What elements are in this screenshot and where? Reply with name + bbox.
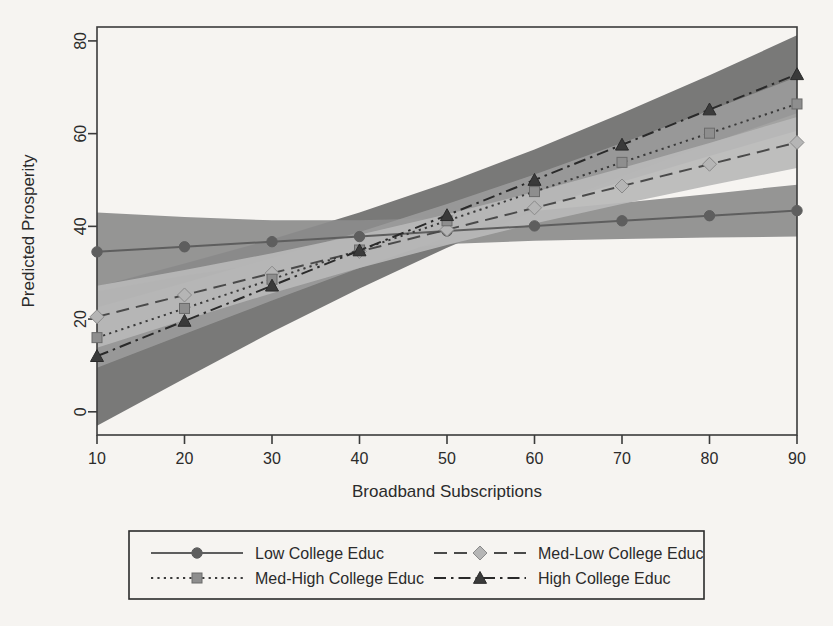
x-tick-label: 40 — [351, 450, 369, 467]
y-tick-label: 20 — [72, 310, 89, 328]
legend-label: Med-Low College Educ — [538, 545, 703, 562]
circle-marker — [704, 211, 714, 221]
circle-marker — [617, 216, 627, 226]
square-marker — [705, 128, 715, 138]
legend: Low College EducMed-Low College EducMed-… — [129, 531, 704, 599]
legend-label: Low College Educ — [255, 545, 384, 562]
x-axis-title: Broadband Subscriptions — [352, 482, 542, 501]
circle-marker — [92, 247, 102, 257]
square-marker — [192, 573, 202, 583]
x-tick-label: 60 — [526, 450, 544, 467]
chart-page: 102030405060708090 020406080 Broadband S… — [0, 0, 833, 626]
y-tick-label: 80 — [72, 32, 89, 50]
y-axis-title: Predicted Prosperity — [19, 154, 38, 308]
square-marker — [792, 99, 802, 109]
x-tick-label: 70 — [613, 450, 631, 467]
circle-marker — [267, 236, 277, 246]
square-marker — [180, 303, 190, 313]
x-tick-label: 80 — [701, 450, 719, 467]
circle-marker — [792, 205, 802, 215]
legend-label: Med-High College Educ — [255, 570, 424, 587]
circle-marker — [354, 231, 364, 241]
circle-marker — [179, 242, 189, 252]
prosperity-broadband-figure: 102030405060708090 020406080 Broadband S… — [0, 0, 833, 626]
circle-marker — [529, 221, 539, 231]
legend-frame — [129, 531, 704, 599]
x-tick-label: 20 — [176, 450, 194, 467]
x-tick-label: 30 — [263, 450, 281, 467]
circle-marker — [192, 548, 202, 558]
y-tick-label: 60 — [72, 125, 89, 143]
square-marker — [617, 157, 627, 167]
x-tick-label: 10 — [88, 450, 106, 467]
legend-label: High College Educ — [538, 570, 671, 587]
square-marker — [92, 333, 102, 343]
x-tick-label: 90 — [788, 450, 806, 467]
y-tick-label: 40 — [72, 217, 89, 235]
square-marker — [530, 187, 540, 197]
y-tick-label: 0 — [72, 407, 89, 416]
x-tick-label: 50 — [438, 450, 456, 467]
